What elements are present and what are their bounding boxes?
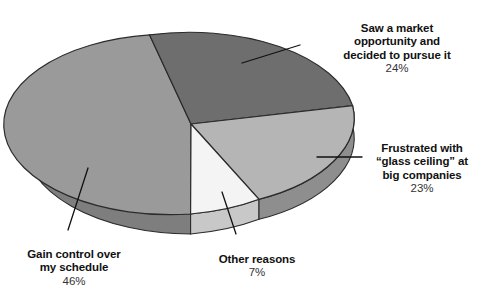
slice-label-other-reasons: Other reasons 7% [196,239,318,289]
slice-label-other-reasons-percent: 7% [196,266,318,280]
slice-label-other-reasons-text: Other reasons [219,253,296,265]
slice-label-gain-control-text: Gain control over my schedule [27,248,121,274]
slice-label-glass-ceiling-text: Frustrated with “glass ceiling” at big c… [376,142,468,181]
slice-label-gain-control-percent: 46% [10,275,138,289]
slice-label-gain-control: Gain control over my schedule 46% [10,234,138,289]
slice-label-saw-market-percent: 24% [322,62,472,76]
slice-label-saw-market: Saw a market opportunity and decided to … [322,8,472,89]
slice-label-glass-ceiling: Frustrated with “glass ceiling” at big c… [363,128,481,209]
slice-label-saw-market-text: Saw a market opportunity and decided to … [343,22,450,61]
slice-label-glass-ceiling-percent: 23% [363,182,481,196]
